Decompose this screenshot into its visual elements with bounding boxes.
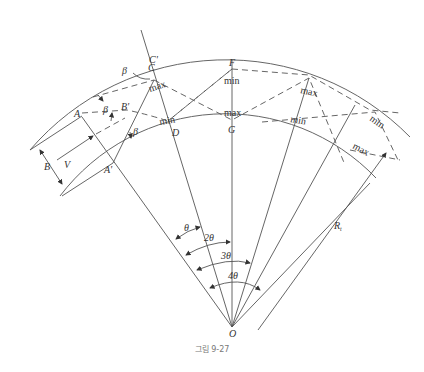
label-beta-Aprime: β bbox=[132, 126, 138, 137]
beta-arrow-mid bbox=[111, 113, 112, 121]
outer-wall-arc bbox=[30, 60, 410, 150]
label-beta-C: β bbox=[121, 65, 127, 76]
wave-pattern-4 bbox=[96, 118, 125, 134]
radial-line-CD bbox=[141, 30, 232, 327]
wave-pattern-7 bbox=[93, 80, 154, 97]
marker-max-C: max bbox=[147, 78, 167, 94]
wave-pattern-3 bbox=[168, 69, 232, 121]
marker-max-r2: max bbox=[351, 140, 371, 158]
radial-line-r2 bbox=[232, 105, 355, 327]
label-F: F bbox=[228, 57, 236, 68]
label-O: O bbox=[229, 328, 236, 339]
radial-line-r3 bbox=[232, 183, 370, 327]
angle-arc-3theta bbox=[197, 261, 250, 270]
label-G: G bbox=[228, 124, 235, 135]
angle-arc-4theta bbox=[210, 282, 260, 290]
label-theta: θ bbox=[184, 222, 189, 233]
marker-max-G: max bbox=[224, 107, 241, 118]
radial-line-A bbox=[82, 117, 232, 327]
marker-min-r2: min bbox=[368, 113, 387, 131]
label-beta-A: β bbox=[102, 104, 108, 115]
label-D: D bbox=[171, 127, 180, 138]
marker-max-r1: max bbox=[300, 84, 319, 98]
label-V: V bbox=[64, 159, 72, 170]
label-3theta: 3θ bbox=[220, 250, 231, 261]
label-R: Rt bbox=[333, 220, 342, 232]
velocity-arrow bbox=[57, 136, 93, 160]
label-2theta: 2θ bbox=[204, 232, 214, 243]
figure-caption: 그림 9-27 bbox=[0, 343, 424, 354]
label-A-prime: A' bbox=[103, 164, 113, 175]
inner-wall-arc bbox=[60, 114, 376, 196]
beta-arrow-top bbox=[98, 95, 103, 101]
marker-min-D: min bbox=[158, 113, 175, 127]
label-B-width: B bbox=[44, 161, 50, 172]
label-4theta: 4θ bbox=[228, 270, 238, 281]
label-C-prime: C' bbox=[149, 54, 159, 65]
bend-flow-diagram: A A' B' C C' D F G O B V Rt β β β θ 2θ 3… bbox=[0, 0, 424, 372]
marker-min-F: min bbox=[224, 75, 240, 86]
label-A: A bbox=[73, 108, 81, 119]
label-B-prime: B' bbox=[121, 101, 130, 112]
wave-line-AprimeC bbox=[113, 80, 154, 163]
entry-outer-wall bbox=[30, 116, 82, 150]
